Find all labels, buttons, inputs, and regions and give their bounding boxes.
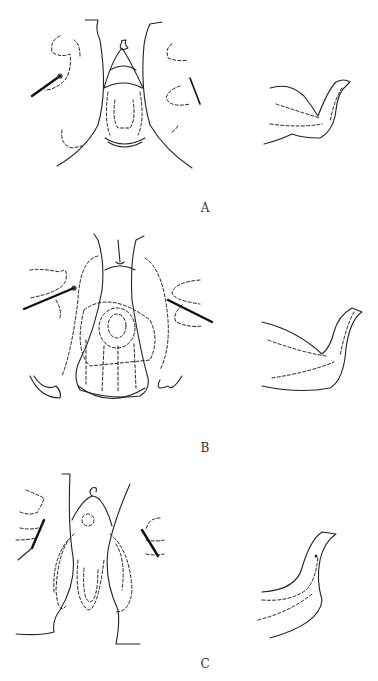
diagram-svg: A B (0, 0, 378, 681)
figure: A B (0, 0, 378, 681)
panel-a-label: A (200, 201, 210, 215)
panel-b-label: B (201, 441, 210, 455)
panel-c-label: C (200, 657, 209, 671)
panel-a-profile-view (264, 80, 350, 144)
panel-b-frontal-view (24, 234, 212, 399)
panel-c-profile-view (258, 532, 336, 638)
panel-c-frontal-view (16, 474, 164, 644)
panel-b-profile-view (262, 308, 362, 391)
panel-a-frontal-view (32, 20, 200, 168)
